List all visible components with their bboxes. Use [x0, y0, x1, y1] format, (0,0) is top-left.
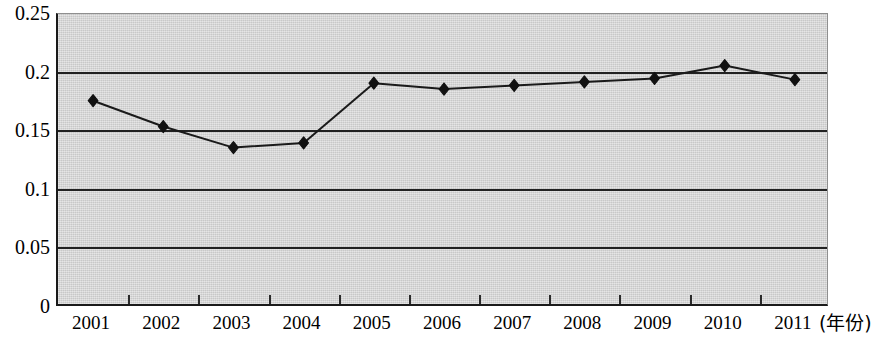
data-point-marker — [650, 72, 660, 84]
line-chart: 00.050.10.150.20.25 20012002200320042005… — [0, 0, 876, 340]
y-axis-tick-label: 0.2 — [0, 62, 50, 82]
x-axis-tick-label: 2011 — [758, 313, 828, 333]
x-axis-tick-label: 2001 — [56, 313, 126, 333]
data-point-marker — [580, 76, 590, 88]
x-axis-tick-label: 2005 — [337, 313, 407, 333]
y-axis-tick-label: 0 — [0, 296, 50, 316]
data-point-marker — [158, 121, 168, 133]
y-axis-tick-label: 0.25 — [0, 3, 50, 23]
y-axis-tick-label: 0.15 — [0, 120, 50, 140]
x-axis-tick-label: 2002 — [126, 313, 196, 333]
data-point-marker — [369, 77, 379, 89]
data-point-marker — [439, 83, 449, 95]
data-point-marker — [88, 95, 98, 107]
x-axis-tick-label: 2010 — [688, 313, 758, 333]
x-axis-tick-label: 2004 — [267, 313, 337, 333]
series-line — [93, 66, 795, 148]
data-point-marker — [790, 74, 800, 86]
plot-area — [56, 13, 828, 306]
series-markers — [88, 60, 799, 154]
y-axis-tick-label: 0.1 — [0, 179, 50, 199]
data-point-marker — [720, 60, 730, 72]
data-point-marker — [509, 79, 519, 91]
x-axis-unit-label: (年份) — [819, 313, 872, 333]
x-axis-tick-label: 2006 — [407, 313, 477, 333]
x-axis-tick-label: 2007 — [477, 313, 547, 333]
x-axis-tick-label: 2008 — [547, 313, 617, 333]
y-axis-tick-label: 0.05 — [0, 237, 50, 257]
x-axis-tick-label: 2009 — [617, 313, 687, 333]
y-axis-labels: 00.050.10.150.20.25 — [0, 0, 50, 340]
x-axis-tick-label: 2003 — [196, 313, 266, 333]
data-point-marker — [299, 137, 309, 149]
data-point-marker — [229, 142, 239, 154]
data-series — [58, 14, 828, 306]
